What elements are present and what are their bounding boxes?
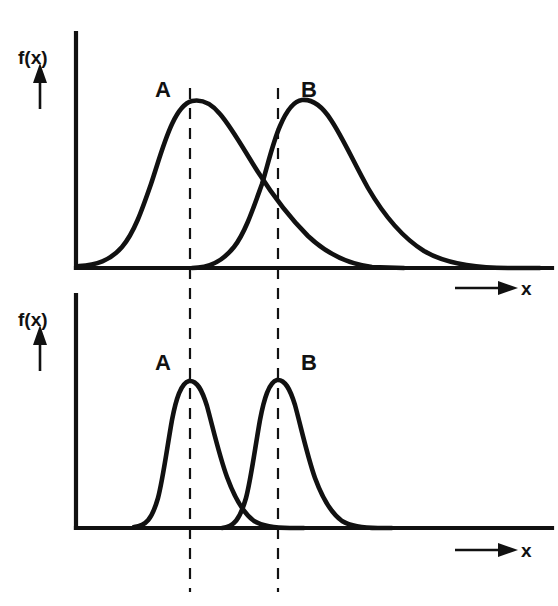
top-panel: [33, 33, 552, 295]
top-panel-curve-a: [79, 101, 404, 268]
top-panel-y-axis-label: f(x): [18, 48, 48, 67]
top-panel-x-axis-arrow: [455, 281, 518, 295]
bottom-panel: [33, 295, 552, 557]
figure-canvas: [0, 0, 558, 606]
bottom-panel-y-axis-arrow: [33, 325, 47, 371]
bottom-panel-x-axis-label: x: [521, 541, 532, 560]
top-panel-curve-b-label: B: [301, 79, 317, 101]
figure-root: f(x) x A B f(x) x A B: [0, 0, 558, 606]
bottom-panel-x-axis-arrow: [455, 543, 518, 557]
bottom-panel-y-axis-label: f(x): [18, 310, 48, 329]
top-panel-curve-a-label: A: [155, 79, 171, 101]
bottom-panel-curve-b: [222, 380, 392, 528]
top-panel-x-axis-label: x: [521, 279, 532, 298]
bottom-panel-curve-b-label: B: [301, 352, 317, 374]
top-panel-y-axis-arrow: [33, 63, 47, 109]
bottom-panel-curve-a-label: A: [155, 352, 171, 374]
top-panel-curve-b: [192, 100, 540, 268]
